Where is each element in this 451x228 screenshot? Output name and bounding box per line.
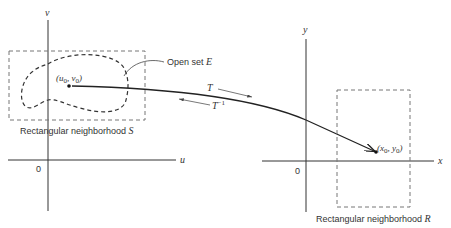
point-x0-y0-label: (x0, y0) <box>377 144 403 155</box>
neighborhood-r-label: Rectangular neighborhood R <box>316 214 431 224</box>
y-axis-label: y <box>303 25 307 35</box>
diagram-graphics <box>0 0 451 228</box>
mapping-curve <box>72 86 374 151</box>
t-label: T <box>207 83 213 93</box>
t-inverse-label: T−1 <box>212 100 225 111</box>
left-axes <box>8 20 176 211</box>
right-axes <box>262 39 434 212</box>
forward-arrow <box>218 89 252 97</box>
point-u0-v0-label: (u0, v0) <box>56 74 82 85</box>
open-set-leader <box>124 61 164 76</box>
right-origin-label: 0 <box>295 167 300 176</box>
left-origin-label: 0 <box>36 165 41 174</box>
open-set-label: Open set E <box>167 57 212 67</box>
x-axis-label: x <box>438 156 442 166</box>
neighborhood-s-label: Rectangular neighborhood S <box>20 126 134 136</box>
u-axis-label: u <box>180 155 185 165</box>
v-axis-label: v <box>45 8 49 18</box>
transformation-diagram: v u 0 Open set E (u0, v0) Rectangular ne… <box>0 0 451 228</box>
inverse-arrow <box>179 99 210 105</box>
